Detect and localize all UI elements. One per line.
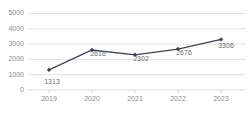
y-tick-label: 1000 bbox=[8, 71, 24, 78]
x-tick-label: 2023 bbox=[213, 95, 229, 102]
gridlines bbox=[28, 14, 246, 75]
data-label: 3306 bbox=[218, 42, 234, 49]
y-axis-labels: 5000 4000 3000 2000 1000 0 bbox=[8, 9, 24, 93]
y-tick-label: 4000 bbox=[8, 25, 24, 32]
x-tick-label: 2021 bbox=[127, 95, 143, 102]
x-tick-label: 2020 bbox=[84, 95, 100, 102]
data-value-labels: 1313 2616 2302 2676 3306 bbox=[44, 42, 234, 85]
data-label: 2302 bbox=[133, 55, 149, 62]
y-tick-label: 5000 bbox=[8, 9, 24, 16]
line-chart: 5000 4000 3000 2000 1000 0 2019 2020 202… bbox=[0, 0, 252, 120]
chart-plot-area: 5000 4000 3000 2000 1000 0 2019 2020 202… bbox=[0, 0, 252, 120]
data-label: 1313 bbox=[44, 78, 60, 85]
x-tick-label: 2019 bbox=[41, 95, 57, 102]
y-tick-label: 0 bbox=[20, 86, 24, 93]
y-tick-label: 3000 bbox=[8, 40, 24, 47]
data-label: 2616 bbox=[90, 50, 106, 57]
y-tick-label: 2000 bbox=[8, 55, 24, 62]
data-label: 2676 bbox=[176, 49, 192, 56]
x-tick-label: 2022 bbox=[170, 95, 186, 102]
x-axis-tickmarks bbox=[49, 90, 221, 93]
x-axis-labels: 2019 2020 2021 2022 2023 bbox=[41, 95, 229, 102]
data-point-marker bbox=[47, 68, 51, 72]
